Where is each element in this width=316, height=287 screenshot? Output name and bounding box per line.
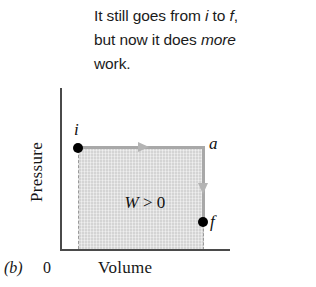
state-label-a: a bbox=[209, 134, 218, 154]
work-comparison: > 0 bbox=[139, 193, 166, 212]
origin-label: 0 bbox=[43, 259, 51, 277]
figure-panel-b: It still goes from i to f, but now it do… bbox=[0, 0, 316, 287]
arrow-down-icon bbox=[198, 183, 208, 194]
panel-label: (b) bbox=[4, 259, 23, 277]
arrow-right-icon bbox=[138, 142, 149, 152]
y-axis-line bbox=[60, 88, 62, 251]
x-axis-label: Volume bbox=[98, 258, 152, 278]
work-inequality-label: W > 0 bbox=[112, 193, 178, 213]
dashed-guide-i bbox=[78, 150, 79, 249]
x-axis-line bbox=[60, 249, 230, 251]
state-label-i: i bbox=[74, 120, 79, 140]
pv-diagram: i a f W > 0 Pressure Volume 0 (b) bbox=[0, 0, 316, 287]
work-symbol: W bbox=[125, 193, 139, 212]
state-point-f bbox=[198, 217, 208, 227]
dashed-guide-f bbox=[203, 224, 204, 250]
state-label-f: f bbox=[210, 212, 215, 232]
y-axis-label: Pressure bbox=[27, 112, 47, 232]
state-point-i bbox=[73, 143, 83, 153]
